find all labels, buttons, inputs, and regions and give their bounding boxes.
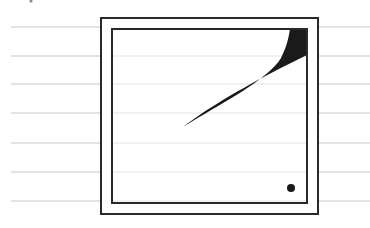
inner-frame-fill — [101, 18, 318, 214]
diagram-figure — [0, 0, 370, 228]
dot-marker — [287, 184, 295, 192]
